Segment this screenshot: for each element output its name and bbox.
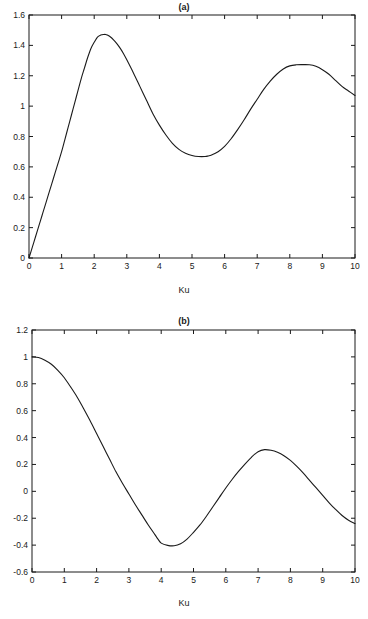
panel-a-xaxis-label: Ku (0, 285, 368, 295)
x-tick-label: 1 (59, 261, 64, 271)
y-tick-label: 1.2 (13, 71, 25, 81)
y-tick-label: 1 (20, 101, 25, 111)
y-tick-label: 0.2 (16, 459, 28, 469)
x-tick-label: 2 (94, 575, 99, 585)
y-tick-label: 0.8 (13, 132, 25, 142)
x-tick-label: 10 (350, 261, 360, 271)
plot-a-svg: 01234567891000.20.40.60.811.21.41.6 (0, 0, 368, 285)
data-curve-real-part (32, 357, 355, 546)
y-tick-label: -0.6 (13, 567, 28, 577)
panel-b-xaxis-label: Ku (0, 598, 368, 608)
y-tick-label: 0.6 (16, 406, 28, 416)
x-tick-label: 1 (62, 575, 67, 585)
x-tick-label: 10 (350, 575, 360, 585)
x-tick-label: 3 (124, 261, 129, 271)
chart-panel-a: (a) 01234567891000.20.40.60.811.21.41.6 … (0, 0, 368, 310)
x-tick-label: 4 (157, 261, 162, 271)
x-tick-label: 0 (27, 261, 32, 271)
y-tick-label: 0 (20, 253, 25, 263)
panel-b-title: (b) (0, 316, 368, 326)
chart-panel-b: (b) 012345678910-0.6-0.4-0.200.20.40.60.… (0, 310, 368, 619)
data-curve-magnitude (29, 34, 355, 258)
x-tick-label: 7 (256, 575, 261, 585)
y-tick-label: 0.2 (13, 223, 25, 233)
x-tick-label: 0 (30, 575, 35, 585)
x-tick-label: 4 (159, 575, 164, 585)
x-tick-label: 8 (287, 261, 292, 271)
y-tick-label: 1.2 (16, 325, 28, 335)
plot-frame (32, 330, 355, 572)
y-tick-label: 1.4 (13, 40, 25, 50)
x-tick-label: 2 (92, 261, 97, 271)
panel-a-title: (a) (0, 2, 368, 12)
x-tick-label: 9 (320, 261, 325, 271)
y-tick-label: 1 (23, 352, 28, 362)
y-tick-label: -0.4 (13, 540, 28, 550)
y-tick-label: 0 (23, 486, 28, 496)
y-tick-label: 0.4 (16, 433, 28, 443)
x-tick-label: 5 (191, 575, 196, 585)
x-tick-label: 9 (320, 575, 325, 585)
y-tick-label: 0.6 (13, 162, 25, 172)
plot-frame (29, 15, 355, 258)
x-tick-label: 3 (127, 575, 132, 585)
x-tick-label: 8 (288, 575, 293, 585)
y-tick-label: -0.2 (13, 513, 28, 523)
x-tick-label: 5 (190, 261, 195, 271)
x-tick-label: 7 (255, 261, 260, 271)
y-tick-label: 0.4 (13, 192, 25, 202)
x-tick-label: 6 (223, 575, 228, 585)
y-tick-label: 0.8 (16, 379, 28, 389)
plot-b-svg: 012345678910-0.6-0.4-0.200.20.40.60.811.… (0, 310, 368, 595)
x-tick-label: 6 (222, 261, 227, 271)
